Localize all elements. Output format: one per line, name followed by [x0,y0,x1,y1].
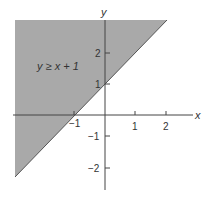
x-axis-label: x [194,109,201,121]
y-tick-label-2: 2 [95,48,101,59]
x-tick-label-2: 2 [163,121,169,132]
y-tick-label-neg1: −1 [88,131,100,142]
y-tick-label-neg2: −2 [88,163,100,174]
x-tick-label-1: 1 [132,121,138,132]
inequality-label: y ≥ x + 1 [36,60,79,72]
x-tick-label-neg1: −1 [69,118,81,129]
y-tick-label-1: 1 [95,79,101,90]
inequality-graph: x y y ≥ x + 1 −1 1 2 2 1 −1 −2 [0,0,214,202]
y-axis-label: y [100,6,108,18]
